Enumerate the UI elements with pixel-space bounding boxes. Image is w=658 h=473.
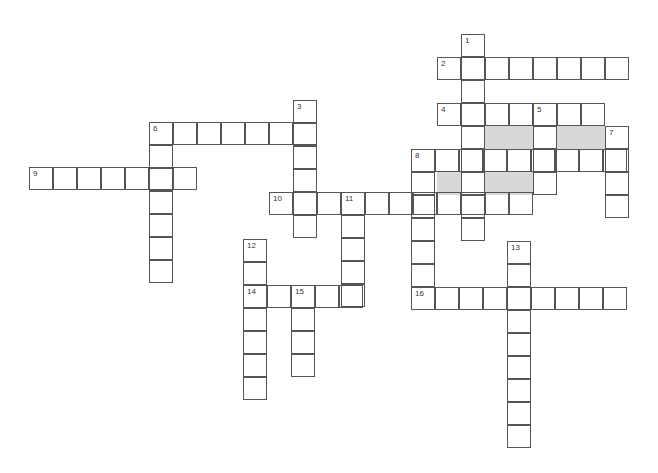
crossword-cell[interactable] — [317, 192, 341, 215]
crossword-cell[interactable] — [197, 122, 221, 145]
crossword-cell[interactable] — [243, 331, 267, 354]
crossword-cell[interactable] — [507, 149, 531, 172]
crossword-cell[interactable] — [581, 57, 605, 80]
crossword-cell[interactable] — [555, 287, 579, 310]
crossword-cell[interactable]: 11 — [341, 192, 365, 215]
crossword-cell[interactable]: 7 — [605, 126, 629, 149]
crossword-cell[interactable] — [291, 354, 315, 377]
crossword-cell[interactable] — [459, 149, 483, 172]
crossword-cell[interactable] — [435, 287, 459, 310]
crossword-cell[interactable] — [291, 308, 315, 331]
crossword-cell[interactable] — [53, 167, 77, 190]
crossword-cell[interactable] — [293, 169, 317, 192]
crossword-cell[interactable]: 1 — [461, 34, 485, 57]
crossword-cell[interactable] — [267, 285, 291, 308]
crossword-cell[interactable] — [509, 57, 533, 80]
crossword-cell[interactable] — [579, 149, 603, 172]
crossword-cell[interactable] — [173, 122, 197, 145]
crossword-cell[interactable] — [437, 192, 461, 215]
crossword-cell[interactable] — [293, 215, 317, 238]
crossword-cell[interactable] — [149, 191, 173, 214]
crossword-cell[interactable] — [485, 192, 509, 215]
crossword-cell[interactable]: 14 — [243, 285, 267, 308]
crossword-cell[interactable] — [461, 192, 485, 215]
crossword-cell[interactable] — [365, 192, 389, 215]
crossword-cell[interactable] — [557, 57, 581, 80]
crossword-cell[interactable] — [149, 260, 173, 283]
crossword-cell[interactable] — [461, 126, 485, 149]
crossword-cell[interactable] — [293, 192, 317, 215]
crossword-cell[interactable] — [605, 57, 629, 80]
crossword-cell[interactable] — [485, 57, 509, 80]
crossword-cell[interactable] — [507, 402, 531, 425]
crossword-cell[interactable] — [603, 149, 627, 172]
crossword-cell[interactable] — [413, 192, 437, 215]
crossword-cell[interactable] — [243, 377, 267, 400]
crossword-cell[interactable] — [339, 285, 363, 308]
crossword-cell[interactable] — [507, 333, 531, 356]
crossword-cell[interactable] — [341, 238, 365, 261]
crossword-cell[interactable]: 16 — [411, 287, 435, 310]
crossword-cell[interactable] — [461, 80, 485, 103]
crossword-cell[interactable] — [101, 167, 125, 190]
crossword-cell[interactable]: 4 — [437, 103, 461, 126]
crossword-cell[interactable] — [411, 264, 435, 287]
crossword-cell[interactable] — [293, 146, 317, 169]
crossword-cell[interactable] — [149, 145, 173, 168]
crossword-cell[interactable] — [243, 354, 267, 377]
crossword-cell[interactable] — [243, 308, 267, 331]
crossword-cell[interactable]: 13 — [507, 241, 531, 264]
crossword-cell[interactable] — [291, 331, 315, 354]
crossword-cell[interactable] — [509, 103, 533, 126]
crossword-cell[interactable] — [149, 237, 173, 260]
crossword-cell[interactable] — [605, 172, 629, 195]
crossword-cell[interactable] — [557, 103, 581, 126]
crossword-cell[interactable] — [555, 149, 579, 172]
crossword-cell[interactable] — [461, 103, 485, 126]
crossword-cell[interactable] — [485, 103, 509, 126]
crossword-cell[interactable]: 5 — [533, 103, 557, 126]
crossword-cell[interactable] — [579, 287, 603, 310]
crossword-cell[interactable]: 12 — [243, 239, 267, 262]
crossword-cell[interactable] — [411, 241, 435, 264]
crossword-cell[interactable] — [243, 262, 267, 285]
crossword-cell[interactable] — [531, 287, 555, 310]
crossword-cell[interactable] — [411, 218, 435, 241]
crossword-cell[interactable] — [605, 195, 629, 218]
crossword-cell[interactable] — [533, 126, 557, 149]
crossword-cell[interactable] — [245, 122, 269, 145]
crossword-cell[interactable] — [603, 287, 627, 310]
crossword-cell[interactable]: 2 — [437, 57, 461, 80]
crossword-cell[interactable] — [483, 287, 507, 310]
crossword-cell[interactable] — [149, 122, 173, 145]
crossword-cell[interactable]: 9 — [29, 167, 53, 190]
crossword-cell[interactable] — [483, 149, 507, 172]
crossword-cell[interactable] — [507, 310, 531, 333]
crossword-cell[interactable] — [341, 261, 365, 284]
crossword-cell[interactable] — [459, 287, 483, 310]
crossword-cell[interactable] — [293, 122, 317, 145]
crossword-cell[interactable] — [315, 285, 339, 308]
crossword-cell[interactable] — [581, 103, 605, 126]
crossword-cell[interactable] — [531, 149, 555, 172]
crossword-cell[interactable] — [461, 57, 485, 80]
crossword-cell[interactable] — [389, 192, 413, 215]
crossword-cell[interactable] — [221, 122, 245, 145]
crossword-cell[interactable] — [507, 425, 531, 448]
crossword-cell[interactable] — [411, 149, 435, 172]
crossword-cell[interactable] — [507, 379, 531, 402]
crossword-cell[interactable] — [149, 167, 173, 190]
crossword-cell[interactable]: 3 — [293, 100, 317, 123]
crossword-cell[interactable] — [341, 215, 365, 238]
crossword-cell[interactable] — [173, 167, 197, 190]
crossword-cell[interactable]: 15 — [291, 285, 315, 308]
crossword-cell[interactable] — [269, 122, 293, 145]
crossword-cell[interactable] — [507, 356, 531, 379]
crossword-cell[interactable] — [533, 172, 557, 195]
crossword-cell[interactable] — [77, 167, 101, 190]
crossword-cell[interactable] — [149, 214, 173, 237]
crossword-cell[interactable] — [461, 218, 485, 241]
crossword-cell[interactable] — [507, 264, 531, 287]
crossword-cell[interactable]: 10 — [269, 192, 293, 215]
crossword-cell[interactable] — [435, 149, 459, 172]
